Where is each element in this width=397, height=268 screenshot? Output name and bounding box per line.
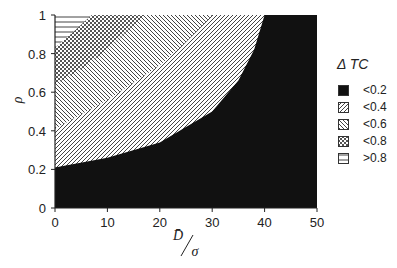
legend-label: <0.4 bbox=[363, 100, 387, 114]
legend-swatch bbox=[338, 85, 349, 96]
y-tick-label: 0.6 bbox=[28, 85, 46, 100]
y-tick-label: 0.4 bbox=[28, 124, 46, 139]
legend-title: Δ TC bbox=[337, 56, 368, 72]
y-tick-label: 1 bbox=[39, 8, 46, 23]
y-axis-label: ρ bbox=[10, 96, 25, 104]
x-axis-label-denominator: σ bbox=[192, 244, 200, 259]
legend-swatch bbox=[338, 153, 349, 164]
x-tick-label: 30 bbox=[205, 215, 219, 230]
x-tick-label: 0 bbox=[51, 215, 58, 230]
x-axis-label-numerator: D̄ bbox=[172, 228, 183, 243]
legend-item: <0.8 bbox=[338, 134, 387, 148]
x-tick-label: 50 bbox=[310, 215, 324, 230]
x-tick-label: 20 bbox=[153, 215, 167, 230]
legend: <0.2<0.4<0.6<0.8>0.8 bbox=[338, 83, 387, 168]
legend-item: >0.8 bbox=[338, 151, 387, 165]
legend-label: >0.8 bbox=[363, 151, 387, 165]
y-tick-label: 0.2 bbox=[28, 162, 46, 177]
legend-swatch bbox=[338, 119, 349, 130]
legend-item: <0.6 bbox=[338, 117, 387, 131]
legend-item: <0.4 bbox=[338, 100, 387, 114]
legend-label: <0.8 bbox=[363, 134, 387, 148]
legend-swatch bbox=[338, 102, 349, 113]
x-tick-label: 10 bbox=[100, 215, 114, 230]
y-tick-label: 0 bbox=[39, 201, 46, 216]
legend-swatch bbox=[338, 136, 349, 147]
plot-area bbox=[55, 10, 322, 208]
x-tick-label: 40 bbox=[257, 215, 271, 230]
legend-item: <0.2 bbox=[338, 83, 387, 97]
legend-label: <0.6 bbox=[363, 117, 387, 131]
y-tick-label: 0.8 bbox=[28, 47, 46, 62]
legend-label: <0.2 bbox=[363, 83, 387, 97]
